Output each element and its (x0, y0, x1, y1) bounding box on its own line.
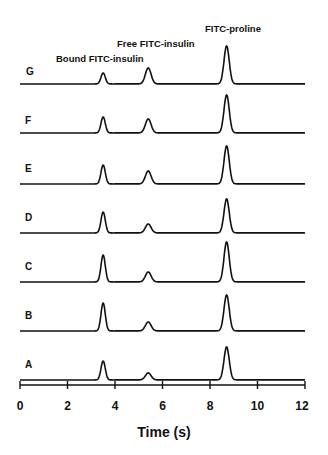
x-axis: 0 2 4 6 8 10 12 (17, 381, 309, 413)
trace-b (20, 295, 305, 331)
x-tick-0: 0 (17, 399, 24, 413)
trace-f (20, 95, 305, 133)
trace-e (20, 146, 305, 184)
trace-a (20, 347, 305, 380)
annotation-free-fitc-insulin: Free FITC-insulin (117, 38, 195, 49)
trace-c (20, 242, 305, 282)
trace-label-d: D (25, 212, 32, 223)
annotation-bound-fitc-insulin: Bound FITC-insulin (56, 53, 144, 64)
trace-label-f: F (25, 115, 31, 126)
x-tick-8: 8 (207, 399, 214, 413)
x-tick-12: 12 (295, 399, 309, 413)
x-tick-10: 10 (251, 399, 265, 413)
trace-label-e: E (25, 163, 32, 174)
traces (20, 46, 305, 380)
trace-label-a: A (25, 359, 32, 370)
annotation-fitc-proline: FITC-proline (205, 23, 261, 34)
x-tick-2: 2 (64, 399, 71, 413)
x-tick-4: 4 (112, 399, 119, 413)
x-tick-6: 6 (159, 399, 166, 413)
x-axis-label: Time (s) (137, 424, 190, 440)
electropherogram-chart: Bound FITC-insulin Free FITC-insulin FIT… (0, 0, 328, 455)
trace-g (20, 46, 305, 84)
trace-d (20, 199, 305, 233)
trace-label-g: G (26, 66, 34, 77)
trace-label-b: B (25, 310, 32, 321)
trace-label-c: C (25, 261, 32, 272)
